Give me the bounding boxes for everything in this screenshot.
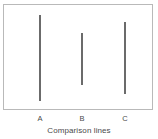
comparison-line-a: [39, 15, 41, 101]
comparison-line-c: [124, 22, 126, 94]
comparison-lines-figure: A B C Comparison lines: [0, 0, 158, 139]
tick-label-b: B: [72, 114, 92, 123]
comparison-line-b: [81, 33, 83, 85]
tick-label-c: C: [115, 114, 135, 123]
tick-label-a: A: [30, 114, 50, 123]
figure-frame: [3, 4, 153, 110]
figure-caption: Comparison lines: [0, 126, 158, 136]
